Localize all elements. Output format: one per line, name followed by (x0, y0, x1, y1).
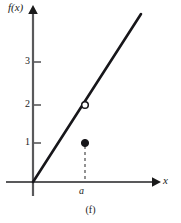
y-tick-label-3: 3 (18, 56, 30, 66)
y-axis-arrow-icon (28, 5, 38, 14)
figure-caption: (f) (0, 205, 181, 215)
x-tick-label-a: a (79, 186, 84, 196)
x-axis-label: x (163, 175, 168, 186)
x-axis-arrow-icon (152, 177, 161, 187)
open-point-marker (82, 102, 89, 109)
y-tick-label-1: 1 (18, 137, 30, 147)
y-axis-label: f(x) (8, 2, 23, 13)
closed-point-marker (81, 139, 88, 146)
figure-container: f(x) x 3 2 1 a (f) (0, 0, 181, 223)
function-line (33, 14, 141, 182)
plot-canvas (0, 0, 181, 223)
y-tick-label-2: 2 (18, 99, 30, 109)
